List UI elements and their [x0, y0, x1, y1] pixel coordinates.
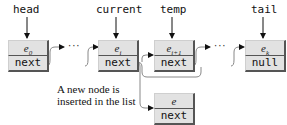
node-next: next	[8, 55, 49, 72]
node-element: ei	[98, 40, 139, 55]
node-next-null: null	[245, 55, 286, 72]
node-new-e: e next	[154, 93, 194, 124]
node-ei: ei next	[98, 40, 138, 71]
caption-text: A new node is inserted in the list	[57, 83, 137, 107]
node-element: ei+1	[154, 40, 195, 55]
node-element: e0	[8, 40, 49, 55]
node-ei-plus-1: ei+1 next	[154, 40, 194, 71]
ellipsis-2: ···	[214, 40, 227, 51]
node-element: e	[154, 93, 195, 108]
ellipsis-1: ···	[68, 40, 81, 51]
node-next: next	[98, 55, 139, 72]
node-element: ek	[245, 40, 286, 55]
node-next: next	[154, 55, 195, 72]
node-ek: ek null	[245, 40, 285, 71]
node-e0: e0 next	[8, 40, 48, 71]
node-next: next	[154, 108, 195, 125]
